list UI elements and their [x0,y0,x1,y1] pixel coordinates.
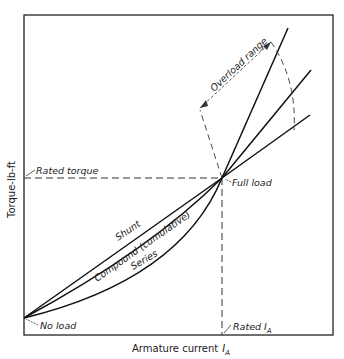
overload-range-label: Overload range [208,35,270,93]
rated-torque-label: Rated torque [36,165,99,176]
overload-range-left-extension [200,110,222,178]
full-load-pointer [225,179,231,182]
shunt-curve [24,178,222,318]
x-axis-label: Armature currentIA [132,343,230,357]
rated-current-pointer [224,325,231,333]
rated-current-label: Rated IA [233,321,272,335]
rated-torque-pointer [26,170,35,176]
full-load-label: Full load [232,177,273,188]
no-load-label: No load [40,320,77,331]
y-axis-label: Torque-lb-ft [6,161,17,219]
no-load-pointer [26,319,38,325]
overload-arrow-left-icon [200,100,208,108]
torque-current-diagram: Overload range Shunt Compound (cumulativ… [0,0,344,359]
overload-range-arc [271,42,294,130]
compound-label: Compound (cumulative) [92,209,192,284]
shunt-label: Shunt [113,217,143,242]
overload-range-dimension-line [200,42,271,108]
